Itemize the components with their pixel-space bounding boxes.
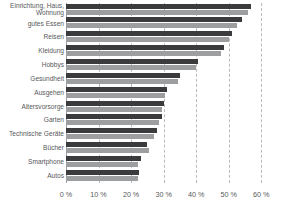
bar-series-1 [66, 170, 139, 175]
category-label: Kleidung [0, 47, 64, 54]
bar-series-2 [66, 176, 138, 181]
bar-row [66, 58, 271, 72]
bar-series-1 [66, 142, 147, 147]
bar-row [66, 114, 271, 128]
x-tick-label: 30 % [155, 190, 171, 199]
bar-row [66, 17, 271, 31]
bar-series-2 [66, 148, 149, 153]
category-label: gutes Essen [0, 20, 64, 27]
bar-row [66, 45, 271, 59]
bar-series-2 [66, 37, 229, 42]
category-axis-labels: Einrichtung, Haus, Wohnunggutes EssenRei… [0, 3, 64, 183]
bar-series-1 [66, 156, 141, 161]
bar-series-2 [66, 79, 178, 84]
plot-area [66, 3, 271, 183]
bar-series-2 [66, 107, 162, 112]
bar-series-1 [66, 45, 224, 50]
bar-series-1 [66, 31, 232, 36]
category-label: Smartphone [0, 158, 64, 165]
bar-row [66, 86, 271, 100]
bar-series-2 [66, 65, 196, 70]
bar-chart: Einrichtung, Haus, Wohnunggutes EssenRei… [0, 0, 281, 209]
category-label: Gesundheit [0, 75, 64, 82]
category-label: Ausgehen [0, 89, 64, 96]
bar-series-1 [66, 4, 251, 9]
bar-row [66, 3, 271, 17]
bar-series-2 [66, 93, 165, 98]
x-tick-label: 20 % [123, 190, 139, 199]
bar-series-2 [66, 120, 159, 125]
x-tick-label: 60 % [253, 190, 269, 199]
bar-series-1 [66, 73, 180, 78]
category-label: Bücher [0, 144, 64, 151]
bar-row [66, 128, 271, 142]
bar-series-2 [66, 23, 237, 28]
bar-series-1 [66, 114, 162, 119]
category-label: Autos [0, 172, 64, 179]
category-label: Einrichtung, Haus, Wohnung [0, 2, 64, 17]
x-tick-label: 50 % [220, 190, 236, 199]
bar-row [66, 155, 271, 169]
bar-series-1 [66, 17, 242, 22]
bar-series-1 [66, 87, 167, 92]
category-label: Hobbys [0, 61, 64, 68]
bar-row [66, 169, 271, 183]
bar-series-2 [66, 51, 221, 56]
bar-row [66, 31, 271, 45]
bar-series-2 [66, 162, 138, 167]
x-tick-label: 10 % [90, 190, 106, 199]
bar-row [66, 100, 271, 114]
bar-series-1 [66, 128, 157, 133]
x-axis: 0 %10 %20 %30 %40 %50 %60 % [66, 183, 271, 205]
category-label: Garten [0, 116, 64, 123]
bar-row [66, 72, 271, 86]
category-label: Technische Geräte [0, 130, 64, 137]
bar-series-2 [66, 134, 154, 139]
category-label: Reisen [0, 33, 64, 40]
bar-series-1 [66, 101, 164, 106]
x-tick-label: 0 % [60, 190, 72, 199]
bar-row [66, 141, 271, 155]
bar-series-2 [66, 10, 248, 15]
bar-rows [66, 3, 271, 183]
category-label: Altersvorsorge [0, 103, 64, 110]
bar-series-1 [66, 59, 198, 64]
x-tick-label: 40 % [188, 190, 204, 199]
